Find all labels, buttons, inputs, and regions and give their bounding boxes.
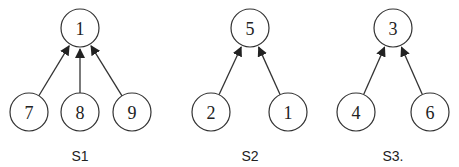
edge-7-to-1 xyxy=(39,46,69,96)
root-node-1: 1 xyxy=(61,9,99,47)
tree-s3: 346S3. xyxy=(337,9,449,164)
tree-s1: 1789S1 xyxy=(10,9,151,164)
child-node-7: 7 xyxy=(10,93,48,131)
edge-2-to-5 xyxy=(219,47,241,95)
edge-4-to-3 xyxy=(364,47,385,94)
root-node-3: 3 xyxy=(374,9,412,47)
tree-s2: 521S2 xyxy=(192,9,307,164)
node-label: 8 xyxy=(76,103,85,123)
child-node-1: 1 xyxy=(269,93,307,131)
node-label: 9 xyxy=(128,103,137,123)
node-label: 3 xyxy=(389,19,398,39)
node-label: 4 xyxy=(352,103,361,123)
child-node-8: 8 xyxy=(61,93,99,131)
child-node-9: 9 xyxy=(113,93,151,131)
node-label: 1 xyxy=(76,19,85,39)
node-label: 1 xyxy=(284,103,293,123)
child-node-2: 2 xyxy=(192,93,230,131)
child-node-6: 6 xyxy=(411,93,449,131)
node-label: 5 xyxy=(246,19,255,39)
edge-9-to-1 xyxy=(91,46,122,96)
set-label: S3. xyxy=(382,148,403,164)
trees-group: 1789S1521S2346S3. xyxy=(10,9,449,164)
edge-1-to-5 xyxy=(259,47,281,95)
child-node-4: 4 xyxy=(337,93,375,131)
node-label: 7 xyxy=(25,103,34,123)
edge-6-to-3 xyxy=(401,47,422,94)
node-label: 2 xyxy=(207,103,216,123)
set-label: S1 xyxy=(71,148,88,164)
disjoint-set-forest-diagram: 1789S1521S2346S3. xyxy=(0,0,459,167)
root-node-5: 5 xyxy=(231,9,269,47)
set-label: S2 xyxy=(241,148,258,164)
node-label: 6 xyxy=(426,103,435,123)
